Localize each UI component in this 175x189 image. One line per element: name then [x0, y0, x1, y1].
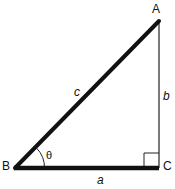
vertex-label-c: C	[163, 159, 172, 173]
vertex-label-b: B	[2, 159, 10, 173]
side-label-c: c	[74, 85, 80, 99]
angle-label-theta: θ	[46, 149, 52, 161]
angle-theta-arc	[37, 148, 45, 168]
side-c-hypotenuse	[15, 21, 159, 168]
side-label-a: a	[97, 173, 104, 187]
vertex-label-a: A	[152, 2, 160, 16]
side-label-b: b	[163, 89, 170, 103]
right-triangle-diagram: A B C c b a θ	[0, 0, 175, 189]
